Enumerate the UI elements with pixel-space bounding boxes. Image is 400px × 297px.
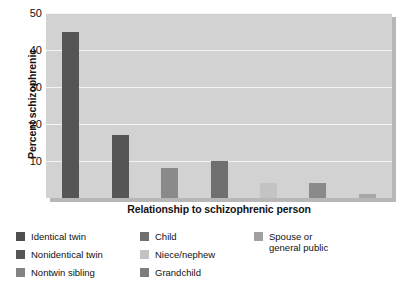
- plot-area: [46, 13, 392, 198]
- y-tick-label: 30: [14, 81, 42, 93]
- bar: [309, 183, 326, 198]
- legend-column: ChildNiece/nephewGrandchild: [140, 231, 250, 285]
- legend-column: Spouse or general public: [254, 231, 384, 260]
- legend-label: Identical twin: [31, 231, 86, 242]
- legend-label: Spouse or general public: [269, 231, 328, 253]
- legend: Identical twinNonidentical twinNontwin s…: [16, 231, 386, 289]
- legend-color-swatch: [16, 232, 25, 241]
- legend-color-swatch: [140, 250, 149, 259]
- legend-item: Grandchild: [140, 267, 250, 278]
- legend-label: Grandchild: [155, 267, 201, 278]
- legend-item: Niece/nephew: [140, 249, 250, 260]
- bar: [161, 168, 178, 198]
- legend-label: Child: [155, 231, 177, 242]
- legend-item: Nonidentical twin: [16, 249, 136, 260]
- x-axis-title: Relationship to schizophrenic person: [46, 203, 392, 215]
- legend-color-swatch: [140, 232, 149, 241]
- legend-label: Nonidentical twin: [31, 249, 103, 260]
- legend-label: Niece/nephew: [155, 249, 215, 260]
- bar: [112, 135, 129, 198]
- legend-color-swatch: [254, 232, 263, 241]
- bar: [211, 161, 228, 198]
- bar: [260, 183, 277, 198]
- y-tick-label: 10: [14, 155, 42, 167]
- legend-column: Identical twinNonidentical twinNontwin s…: [16, 231, 136, 285]
- legend-color-swatch: [16, 250, 25, 259]
- legend-item: Child: [140, 231, 250, 242]
- y-tick-label: 40: [14, 44, 42, 56]
- legend-item: Spouse or general public: [254, 231, 384, 253]
- y-axis-tick-labels: 1020304050: [14, 8, 42, 200]
- bar: [62, 32, 79, 199]
- bar: [359, 194, 376, 198]
- y-tick-label: 50: [14, 7, 42, 19]
- legend-item: Identical twin: [16, 231, 136, 242]
- bar-series: [46, 13, 392, 198]
- legend-label: Nontwin sibling: [31, 267, 95, 278]
- bar-chart-figure: Percent schizophrenic 1020304050 Relatio…: [0, 0, 400, 297]
- legend-color-swatch: [16, 268, 25, 277]
- legend-color-swatch: [140, 268, 149, 277]
- legend-item: Nontwin sibling: [16, 267, 136, 278]
- y-tick-label: 20: [14, 118, 42, 130]
